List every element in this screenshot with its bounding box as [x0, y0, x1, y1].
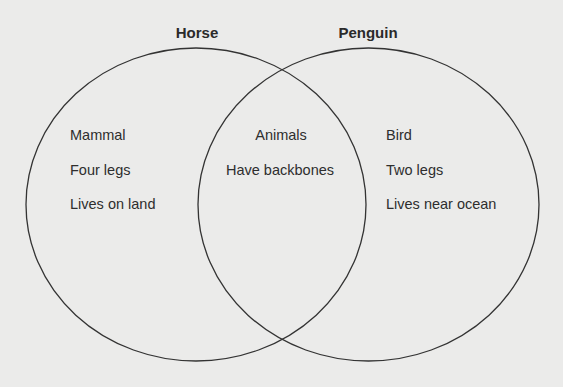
- penguin-item-two-legs: Two legs: [386, 163, 443, 178]
- horse-item-mammal: Mammal: [70, 128, 126, 143]
- horse-item-four-legs: Four legs: [70, 163, 130, 178]
- horse-set-title: Horse: [176, 25, 219, 40]
- shared-item-animals: Animals: [255, 128, 307, 143]
- penguin-set-title: Penguin: [338, 25, 397, 40]
- venn-diagram: [0, 0, 563, 387]
- horse-item-lives-on-land: Lives on land: [70, 197, 155, 212]
- penguin-item-lives-near-ocean: Lives near ocean: [386, 197, 496, 212]
- penguin-item-bird: Bird: [386, 128, 412, 143]
- shared-item-have-backbones: Have backbones: [226, 163, 334, 178]
